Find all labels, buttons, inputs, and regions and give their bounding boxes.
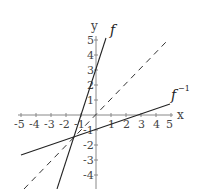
y-tick-labels: 5 4 3 2 1 -1 -2 -3 -4 <box>83 34 94 182</box>
y-tick-label: -4 <box>83 169 94 182</box>
y-tick-label: -3 <box>83 154 94 167</box>
f-label: f <box>109 22 118 38</box>
y-axis-label: y <box>90 19 98 33</box>
x-tick-label: 3 <box>138 118 145 131</box>
x-tick-label: -4 <box>29 118 40 131</box>
x-tick-label: -5 <box>14 118 25 131</box>
y-tick-label: 5 <box>87 34 94 47</box>
y-tick-label: 3 <box>87 64 94 77</box>
y-tick-label: 4 <box>87 49 94 62</box>
x-tick-label: 5 <box>166 118 173 131</box>
x-tick-label: -3 <box>44 118 55 131</box>
y-tick-label: 1 <box>87 94 94 107</box>
x-tick-label: 4 <box>153 118 160 131</box>
y-tick-label: -2 <box>83 139 94 152</box>
f-line <box>57 38 106 189</box>
x-axis-label: x <box>177 108 184 122</box>
f-inverse-superscript: −1 <box>178 84 190 93</box>
function-inverse-plot: -5 -4 -3 -2 -1 1 2 3 4 5 5 4 3 2 1 -1 -2… <box>0 0 202 189</box>
x-tick-label: -2 <box>59 118 70 131</box>
